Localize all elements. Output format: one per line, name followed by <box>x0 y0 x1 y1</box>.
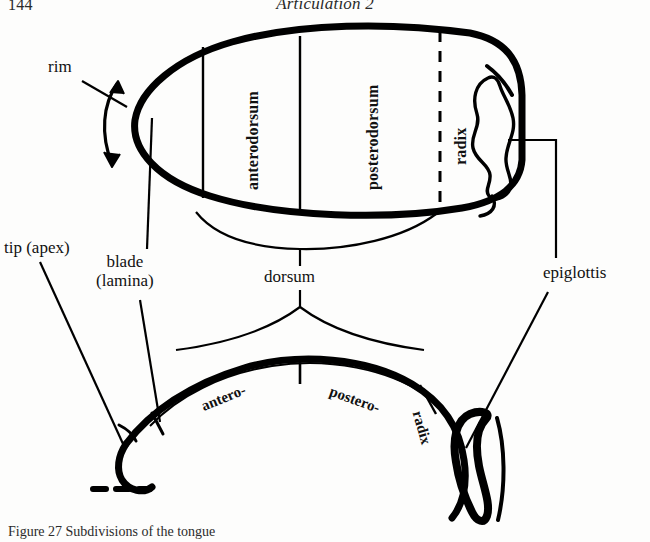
book-page: 144 Articulation 2 <box>0 0 650 542</box>
label-anterodorsum: anterodorsum <box>244 91 262 190</box>
tongue-outline-sagittal <box>126 359 465 518</box>
leader-blade-up <box>147 118 152 249</box>
figure-caption: Figure 27 Subdivisions of the tongue <box>8 524 628 542</box>
leader-epiglottis-up <box>508 140 556 258</box>
label-radix: radix <box>452 128 470 165</box>
dorsum-brace-upper <box>196 212 436 266</box>
label-tip-apex: tip (apex) <box>4 238 70 257</box>
label-blade-line2: (lamina) <box>96 271 154 290</box>
label-dorsum: dorsum <box>264 267 315 286</box>
epiglottis-outer-wall-sagittal <box>497 418 504 520</box>
label-blade-line1: blade <box>96 252 154 271</box>
leader-blade-down <box>140 300 160 422</box>
label-epiglottis: epiglottis <box>543 263 606 282</box>
tongue-outline-superior <box>135 26 522 215</box>
sagittal-view-group <box>93 356 504 521</box>
label-rim: rim <box>48 57 72 76</box>
superior-view-group <box>135 26 522 216</box>
leader-epiglottis-down <box>466 292 548 448</box>
rim-arrowhead-down <box>104 152 120 167</box>
epiglottis-shape-superior <box>472 77 513 199</box>
dorsum-brace-lower <box>176 290 424 350</box>
tongue-tip-sagittal <box>119 444 152 491</box>
label-posterodorsum: posterodorsum <box>364 85 382 190</box>
rim-arrowhead-up <box>110 81 124 94</box>
label-blade-lamina: blade (lamina) <box>96 252 154 290</box>
